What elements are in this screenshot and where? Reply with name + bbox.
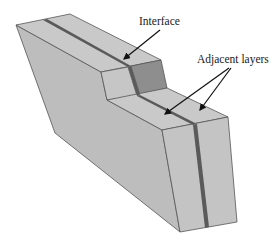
interface-label: Interface [139, 15, 180, 27]
block-drawing [0, 0, 279, 242]
adjacent-layers-label: Adjacent layers [197, 53, 269, 65]
adjacent-arrow-right [200, 68, 231, 110]
diagram-canvas: Interface Adjacent layers [0, 0, 279, 242]
